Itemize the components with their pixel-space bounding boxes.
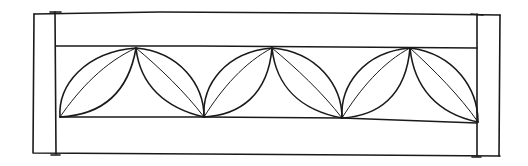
leaf-5 [342,48,410,118]
frame-top-edge [34,12,500,15]
leaf-1 [60,48,136,117]
side-posts [50,12,483,157]
frame-right-edge [499,15,500,156]
leaf-4 [272,48,342,118]
frame-left-bottom-edge [33,14,500,156]
leaf-border-illustration [0,0,528,166]
leaf-6 [410,48,478,122]
leaf-3 [204,48,272,117]
line-drawing-canvas [0,0,528,166]
leaf-2 [136,48,204,117]
leaf-motif [60,48,478,122]
left-post-line [55,12,56,154]
inner-band-bottom [60,117,477,123]
inner-band-top [56,46,477,48]
right-post-cap-top [471,14,483,15]
outer-frame [33,12,500,156]
